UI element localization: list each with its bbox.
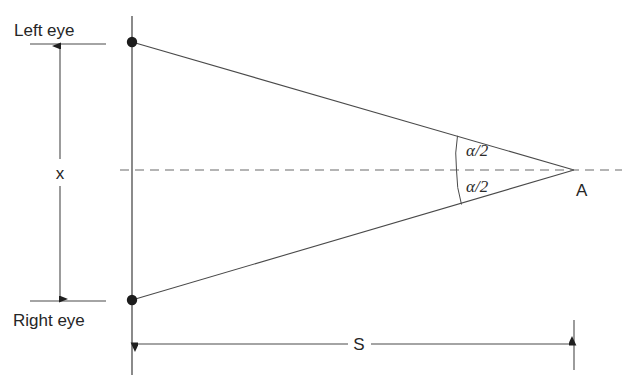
angle-arc-lower [456,170,461,204]
angle-arc-upper [456,136,458,170]
angle-label-lower: α/2 [466,177,489,196]
diagram-canvas: α/2 α/2 A x Left eye Right eye S [0,0,635,387]
right-eye-label: Right eye [13,311,85,330]
sight-line-left-eye [132,42,574,170]
apex-point-label: A [576,181,588,200]
s-dimension-label: S [353,335,364,354]
left-eye-label: Left eye [14,21,75,40]
sight-line-right-eye [132,170,574,300]
right-eye-dot [127,295,137,305]
angle-label-upper: α/2 [466,141,489,160]
x-dimension-label: x [56,164,65,183]
parallax-diagram-svg: α/2 α/2 A x Left eye Right eye S [0,0,635,387]
left-eye-dot [127,37,137,47]
